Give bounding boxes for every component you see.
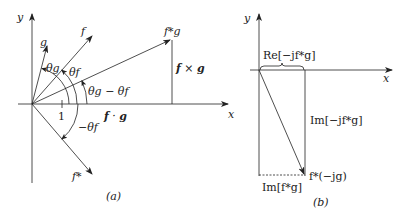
label-theta-g: θg (46, 62, 60, 75)
axis-y-label-a: y (16, 11, 24, 24)
label-im-neg-jfg: Im[−jf*g] (310, 114, 363, 127)
panel-a (18, 14, 228, 183)
label-f: f (80, 25, 87, 38)
axis-x-label-a: x (228, 108, 235, 121)
axis-y-label-b: y (243, 12, 251, 25)
panel-b (250, 14, 392, 176)
label-dot-product: f · g (103, 110, 127, 123)
label-theta-f: θf (69, 66, 82, 79)
label-re: Re[−jf*g] (263, 49, 316, 62)
vector-fstar-neg-jg (259, 70, 304, 174)
caption-a: (a) (106, 190, 121, 203)
label-fstar: f* (71, 170, 82, 183)
diagram-canvas: y x g f f*g f* θg θf θg − θf −θf 1 f · g… (0, 0, 406, 220)
label-im-fg: Im[f*g] (262, 181, 302, 194)
label-neg-theta-f: −θf (78, 121, 100, 134)
label-g: g (40, 36, 47, 49)
label-theta-diff: θg − θf (88, 85, 130, 98)
label-fstar-g: f*g (163, 25, 181, 38)
panel-b-labels: y x Re[−jf*g] Im[−jf*g] f*(−jg) Im[f*g] … (243, 12, 390, 209)
label-tick-one: 1 (58, 110, 65, 123)
re-brace (260, 63, 304, 70)
caption-b: (b) (313, 196, 329, 209)
label-tip: f*(−jg) (309, 170, 347, 183)
arc-diff (82, 81, 87, 104)
panel-a-labels: y x g f f*g f* θg θf θg − θf −θf 1 f · g… (16, 11, 235, 203)
label-cross-product: f × g (175, 62, 205, 75)
axis-x-label-b: x (383, 72, 390, 85)
